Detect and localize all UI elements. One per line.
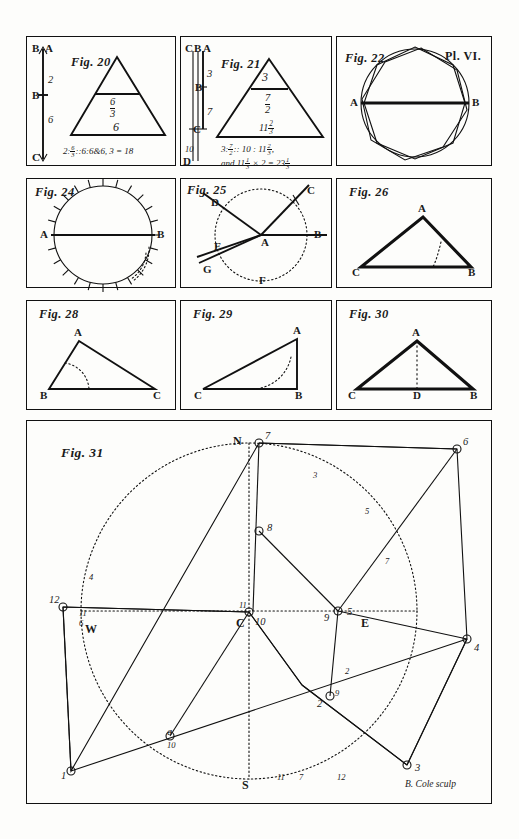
fig25-label-B: B xyxy=(314,229,321,240)
figure-cell-fig20: B A 2 B 6 C 63 6 Fig. 20 2:63::6:6&6, 3 … xyxy=(26,36,176,166)
fig21-equation: 3:72:: 10 : 1123, and 1113 × 2 = 2313 xyxy=(221,143,290,171)
fig21-value-11-two-thirds: 1123 xyxy=(259,121,274,136)
fig31-bearing-7b: 7 xyxy=(299,773,303,782)
fig21-value-3-apex: 3 xyxy=(262,71,268,83)
fig31-station-10-lower: 10 xyxy=(167,741,176,750)
fig21-label-C-mid: C xyxy=(193,124,201,135)
figure-cell-fig25: D C A B E G F Fig. 25 xyxy=(180,178,332,288)
engraving-plate: B A 2 B 6 C 63 6 Fig. 20 2:63::6:6&6, 3 … xyxy=(0,0,519,839)
fig30-label-B: B xyxy=(470,390,477,401)
fig31-label-south: S xyxy=(242,779,249,791)
fig31-bearing-2: 2 xyxy=(345,667,349,676)
fig20-equation: 2:63::6:6&6, 3 = 18 xyxy=(63,145,133,159)
fig30-title: Fig. 30 xyxy=(349,307,389,322)
fig30-label-A: A xyxy=(412,327,420,338)
fig31-label-east: E xyxy=(361,617,369,629)
fig31-station-10: 10 xyxy=(255,617,266,628)
figure-cell-fig24: A B Fig. 24 xyxy=(26,178,176,288)
fig31-station-4: 4 xyxy=(474,643,479,654)
fig20-value-6-base: 6 xyxy=(113,121,119,133)
fig31-title: Fig. 31 xyxy=(61,445,104,461)
fig31-station-1: 1 xyxy=(61,771,66,782)
fig20-label-C: C xyxy=(32,152,40,163)
fig28-label-B: B xyxy=(40,390,47,401)
fig29-title: Fig. 29 xyxy=(193,307,233,322)
fig28-label-C: C xyxy=(153,390,161,401)
fig29-label-B: B xyxy=(295,390,302,401)
fig20-value-2: 2 xyxy=(48,75,53,86)
fig24-label-A: A xyxy=(40,229,48,240)
fig25-title: Fig. 25 xyxy=(187,183,227,198)
fig31-bearing-12: 12 xyxy=(337,773,346,782)
fig25-label-F: F xyxy=(259,275,266,286)
fig22-title: Fig. 22 xyxy=(345,51,385,66)
fig31-station-5: 5 xyxy=(347,607,352,618)
fig31-bearing-5: 5 xyxy=(365,507,369,516)
figure-cell-fig29: A B C Fig. 29 xyxy=(180,300,332,410)
fig31-station-11-center: 11 xyxy=(239,601,247,610)
fig22-label-B: B xyxy=(472,97,479,108)
fig21-value-7-over-2: 72 xyxy=(265,93,270,115)
fig21-value-3-scale: 3 xyxy=(207,69,212,80)
fig31-station-7: 7 xyxy=(265,431,270,442)
fig31-bearing-11b: 11 xyxy=(79,609,87,618)
fig20-label-B-top: B xyxy=(32,43,39,54)
fig31-station-2: 2 xyxy=(317,699,322,710)
fig31-label-center-C: C xyxy=(236,617,245,629)
fig25-label-A: A xyxy=(261,237,269,248)
fig20-label-B-mid: B xyxy=(32,90,39,101)
figure-cell-fig31: N S E W C 7 6 8 9 10 11 12 1 2 3 4 5 a 1… xyxy=(26,420,492,804)
fig25-label-G: G xyxy=(203,264,212,275)
fig20-value-6-scale: 6 xyxy=(48,115,53,126)
fig21-label-D: D xyxy=(183,156,191,167)
fig25-label-E: E xyxy=(214,241,221,252)
fig21-value-7-scale: 7 xyxy=(207,107,212,118)
figure-cell-fig30: A B C D Fig. 30 xyxy=(336,300,492,410)
fig20-value-6-over-3: 63 xyxy=(110,97,115,119)
fig31-station-3: 3 xyxy=(415,763,420,774)
fig21-label-B-top: B xyxy=(194,43,201,54)
fig26-label-B: B xyxy=(468,267,475,278)
figure-cell-fig22: A B Fig. 22 Pl. VI. xyxy=(336,36,492,166)
fig30-label-C: C xyxy=(348,390,356,401)
fig31-station-a: a xyxy=(167,727,172,738)
fig31-station-9: 9 xyxy=(324,613,329,624)
figure-cell-fig28: A B C Fig. 28 xyxy=(26,300,176,410)
fig25-label-D: D xyxy=(211,197,219,208)
fig31-station-12: 12 xyxy=(49,595,60,606)
engraver-signature: B. Cole sculp xyxy=(405,779,456,789)
fig20-label-A: A xyxy=(45,43,53,54)
fig31-bearing-4: 4 xyxy=(89,573,93,582)
fig31-bearing-9: 9 xyxy=(335,689,339,698)
fig26-label-A: A xyxy=(418,203,426,214)
fig20-title: Fig. 20 xyxy=(71,55,111,70)
figure-cell-fig26: A B C Fig. 26 xyxy=(336,178,492,288)
fig21-label-A: A xyxy=(203,43,211,54)
fig21-label-B-mid: B xyxy=(195,82,202,93)
fig21-title: Fig. 21 xyxy=(221,57,261,72)
fig31-bearing-7: 7 xyxy=(385,557,389,566)
fig24-title: Fig. 24 xyxy=(35,185,75,200)
fig30-label-D: D xyxy=(413,390,421,401)
fig24-label-B: B xyxy=(157,229,164,240)
fig29-label-C: C xyxy=(194,390,202,401)
plate-label: Pl. VI. xyxy=(445,49,481,64)
fig31-label-west: W xyxy=(85,623,97,635)
fig31-station-8: 8 xyxy=(267,523,272,534)
fig31-bearing-3: 3 xyxy=(313,471,317,480)
fig26-title: Fig. 26 xyxy=(349,185,389,200)
fig22-label-A: A xyxy=(350,97,358,108)
fig31-bearing-6: 6 xyxy=(79,619,83,628)
fig31-drawing xyxy=(27,421,493,805)
fig31-label-north: N xyxy=(233,435,242,447)
fig26-label-C: C xyxy=(352,267,360,278)
fig31-bearing-11: 11 xyxy=(277,773,285,782)
fig28-label-A: A xyxy=(74,327,82,338)
fig25-label-C: C xyxy=(307,185,315,196)
fig29-label-A: A xyxy=(293,325,301,336)
fig28-title: Fig. 28 xyxy=(39,307,79,322)
fig21-value-10-scale: 10 xyxy=(185,145,194,154)
fig31-station-6: 6 xyxy=(463,437,468,448)
fig21-label-C-top: C xyxy=(185,43,193,54)
figure-cell-fig21: C B A 3 B 7 C 10 D 3 72 1123 Fig. 21 3:7… xyxy=(180,36,332,166)
